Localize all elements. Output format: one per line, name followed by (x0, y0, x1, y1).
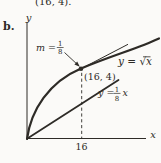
part-label: b. (3, 20, 15, 33)
x-axis-label: x (150, 129, 156, 140)
slope-arrow-shaft (65, 53, 77, 64)
slope-frac-numerator: 1 (58, 40, 62, 48)
line-frac-numerator: 1 (115, 86, 119, 94)
textbook-figure: (16, 4). b. y x m = 1 8 (16, 4) (0, 0, 161, 163)
line-equation-label: y = 1 8 x (97, 86, 129, 103)
line-equation-suffix: x (123, 87, 129, 98)
figure-canvas: (16, 4). b. y x m = 1 8 (16, 4) (0, 0, 161, 163)
slope-label-prefix: m = (36, 42, 56, 53)
y-axis-label: y (25, 12, 32, 23)
x-tick-label: 16 (75, 141, 87, 152)
slope-frac-denominator: 8 (58, 48, 62, 56)
line-equation-prefix: y = (97, 87, 114, 98)
line-frac-denominator: 8 (115, 95, 119, 103)
tangent-point-dot (79, 66, 84, 71)
point-coordinates-label: (16, 4) (84, 71, 116, 82)
clipped-text-fragment: (16, 4). (35, 0, 71, 7)
curve-equation-text: y = √x (117, 55, 152, 67)
slope-label: m = 1 8 (36, 40, 64, 56)
curve-equation-label: y = √x (117, 55, 152, 67)
